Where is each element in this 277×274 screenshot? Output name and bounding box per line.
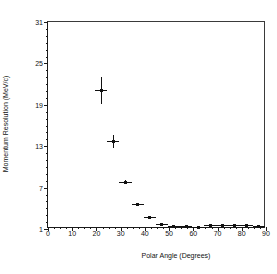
- x-tick-minor: [115, 227, 116, 229]
- plot-area: 1713192531 0102030405060708090: [47, 21, 265, 228]
- point-marker: [257, 225, 260, 228]
- y-tick-minor: [46, 181, 48, 182]
- y-tick-mark: [44, 105, 48, 106]
- y-tick-minor: [46, 98, 48, 99]
- x-tick-minor: [151, 227, 152, 229]
- x-tick-minor: [230, 227, 231, 229]
- y-tick-label: 31: [35, 19, 43, 26]
- point-marker: [221, 224, 224, 227]
- y-tick-minor: [46, 222, 48, 223]
- point-marker: [100, 89, 103, 92]
- x-tick-minor: [254, 227, 255, 229]
- point-marker: [160, 223, 163, 226]
- y-tick-label: 13: [35, 143, 43, 150]
- y-tick-minor: [46, 160, 48, 161]
- x-tick-minor: [127, 227, 128, 229]
- y-tick-mark: [44, 188, 48, 189]
- y-tick-minor: [46, 91, 48, 92]
- x-tick-minor: [78, 227, 79, 229]
- x-tick-minor: [212, 227, 213, 229]
- x-tick-label: 20: [93, 230, 101, 237]
- x-tick-minor: [163, 227, 164, 229]
- y-tick-minor: [46, 215, 48, 216]
- x-tick-minor: [54, 227, 55, 229]
- y-tick-minor: [46, 126, 48, 127]
- y-tick-minor: [46, 195, 48, 196]
- x-tick-minor: [90, 227, 91, 229]
- figure: Momentum Resolution (MeV/c) Polar Angle …: [0, 0, 277, 274]
- y-tick-minor: [46, 132, 48, 133]
- y-tick-minor: [46, 77, 48, 78]
- point-marker: [233, 224, 236, 227]
- point-marker: [245, 224, 248, 227]
- x-tick-label: 0: [46, 230, 50, 237]
- x-tick-label: 90: [262, 230, 270, 237]
- point-marker: [124, 181, 127, 184]
- x-tick-minor: [157, 227, 158, 229]
- point-marker: [197, 226, 200, 229]
- y-tick-minor: [46, 174, 48, 175]
- y-tick-minor: [46, 43, 48, 44]
- y-tick-minor: [46, 139, 48, 140]
- y-tick-minor: [46, 70, 48, 71]
- x-tick-label: 40: [141, 230, 149, 237]
- x-tick-minor: [133, 227, 134, 229]
- y-tick-mark: [44, 22, 48, 23]
- y-tick-minor: [46, 36, 48, 37]
- y-tick-label: 7: [39, 184, 43, 191]
- y-tick-minor: [46, 84, 48, 85]
- y-tick-minor: [46, 112, 48, 113]
- point-marker: [112, 140, 115, 143]
- x-tick-minor: [84, 227, 85, 229]
- x-tick-label: 50: [165, 230, 173, 237]
- y-tick-mark: [44, 63, 48, 64]
- x-tick-minor: [103, 227, 104, 229]
- y-tick-minor: [46, 57, 48, 58]
- y-tick-label: 19: [35, 101, 43, 108]
- y-tick-minor: [46, 50, 48, 51]
- y-tick-label: 25: [35, 60, 43, 67]
- y-tick-mark: [44, 146, 48, 147]
- x-tick-minor: [236, 227, 237, 229]
- y-tick-minor: [46, 167, 48, 168]
- y-tick-label: 1: [39, 226, 43, 233]
- y-tick-minor: [46, 201, 48, 202]
- x-axis-title: Polar Angle (Degrees): [142, 252, 211, 259]
- x-tick-label: 80: [238, 230, 246, 237]
- x-tick-minor: [205, 227, 206, 229]
- x-tick-label: 60: [189, 230, 197, 237]
- x-tick-minor: [181, 227, 182, 229]
- x-tick-minor: [60, 227, 61, 229]
- point-marker: [172, 225, 175, 228]
- point-marker: [148, 216, 151, 219]
- x-tick-minor: [66, 227, 67, 229]
- x-tick-label: 70: [214, 230, 222, 237]
- y-tick-minor: [46, 153, 48, 154]
- x-tick-minor: [139, 227, 140, 229]
- point-marker: [136, 203, 139, 206]
- x-tick-minor: [109, 227, 110, 229]
- point-marker: [185, 225, 188, 228]
- y-tick-minor: [46, 119, 48, 120]
- y-tick-minor: [46, 29, 48, 30]
- y-tick-minor: [46, 208, 48, 209]
- point-marker: [209, 224, 212, 227]
- x-tick-label: 10: [68, 230, 76, 237]
- y-axis-title: Momentum Resolution (MeV/c): [2, 76, 9, 172]
- x-tick-label: 30: [117, 230, 125, 237]
